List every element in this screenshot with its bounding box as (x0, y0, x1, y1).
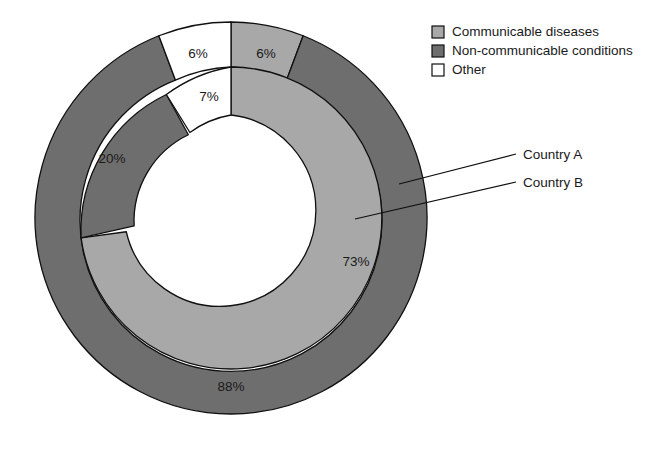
legend-label-communicable: Communicable diseases (452, 24, 599, 39)
value-label-inner-communicable: 73% (342, 254, 369, 269)
legend-item-other[interactable]: Other (432, 62, 486, 77)
value-label-inner-other: 7% (199, 89, 219, 104)
legend-label-other: Other (452, 62, 486, 77)
legend: Communicable diseases Non-communicable c… (432, 24, 633, 77)
legend-swatch-noncommunicable-icon (432, 45, 444, 57)
value-label-outer-other: 6% (188, 46, 208, 61)
legend-swatch-communicable-icon (432, 26, 444, 38)
legend-item-non-communicable-conditions[interactable]: Non-communicable conditions (432, 43, 633, 58)
value-label-outer-communicable: 6% (256, 46, 276, 61)
callout-label-country-a: Country A (523, 147, 582, 162)
legend-label-noncommunicable: Non-communicable conditions (452, 43, 633, 58)
legend-item-communicable-diseases[interactable]: Communicable diseases (432, 24, 599, 39)
nested-donut-chart: 6% 88% 6% 73% 20% 7% Country A Country B… (0, 0, 657, 461)
value-label-outer-noncommunicable: 88% (217, 379, 244, 394)
callout-label-country-b: Country B (523, 175, 583, 190)
value-label-inner-noncommunicable: 20% (98, 151, 125, 166)
legend-swatch-other-icon (432, 64, 444, 76)
